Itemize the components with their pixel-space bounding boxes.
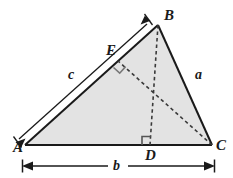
side-label-c: c	[68, 68, 74, 82]
side-label-b: b	[113, 159, 120, 173]
dimension-b-arrow-start	[22, 162, 33, 171]
dimension-b-arrow-end	[204, 162, 215, 171]
diagram-canvas	[0, 0, 233, 178]
vertex-label-d: D	[145, 148, 156, 163]
side-label-a: a	[195, 68, 202, 82]
vertex-label-b: B	[164, 8, 174, 23]
vertex-label-a: A	[13, 140, 23, 155]
geometry-figure: A B C D E a b c	[0, 0, 233, 178]
vertex-label-c: C	[216, 138, 226, 153]
vertex-label-e: E	[106, 43, 116, 58]
